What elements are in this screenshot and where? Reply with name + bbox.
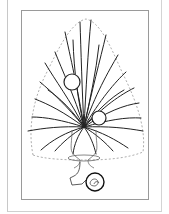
vase-rim xyxy=(68,155,100,161)
arrangement-illustration xyxy=(0,0,169,214)
vase xyxy=(71,130,97,168)
ornament-upper-left xyxy=(64,74,80,90)
dashed-outline xyxy=(31,19,144,160)
ornament-right xyxy=(92,111,106,125)
stems xyxy=(28,20,143,154)
